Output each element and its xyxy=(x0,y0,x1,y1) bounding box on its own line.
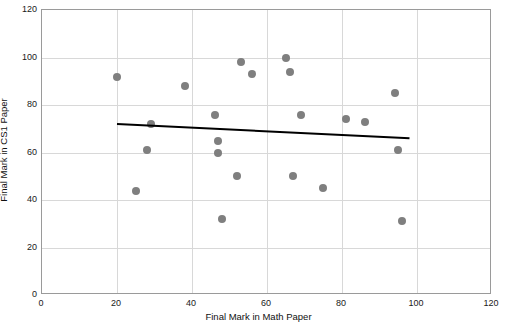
x-tick-label: 120 xyxy=(476,298,506,308)
x-tick-label: 0 xyxy=(26,298,56,308)
y-tick-label: 20 xyxy=(3,242,37,252)
x-tick-label: 40 xyxy=(176,298,206,308)
plot-area xyxy=(41,9,491,294)
y-tick-label: 120 xyxy=(3,4,37,14)
y-tick-label: 0 xyxy=(3,289,37,299)
x-axis-title: Final Mark in Math Paper xyxy=(0,311,517,322)
x-tick-label: 60 xyxy=(251,298,281,308)
y-axis-title: Final Mark in CS1 Paper xyxy=(0,98,9,201)
x-tick-label: 100 xyxy=(401,298,431,308)
x-tick-label: 20 xyxy=(101,298,131,308)
x-tick-label: 80 xyxy=(326,298,356,308)
trendline xyxy=(42,10,490,293)
y-tick-label: 100 xyxy=(3,52,37,62)
scatter-chart: 020406080100120 020406080100120 Final Ma… xyxy=(0,0,517,328)
